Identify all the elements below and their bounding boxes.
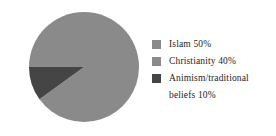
- pie-slice-group: [29, 12, 139, 122]
- legend-label-christianity: Christianity 40%: [169, 53, 276, 70]
- pie-slice: [29, 12, 139, 67]
- chart-legend: Islam 50% Christianity 40% Animism/tradi…: [151, 36, 276, 104]
- legend-swatch-animism: [152, 74, 161, 83]
- pie-chart-figure: Islam 50% Christianity 40% Animism/tradi…: [0, 0, 276, 136]
- legend-label-islam: Islam 50%: [169, 36, 276, 53]
- legend-swatch-christianity: [152, 57, 161, 66]
- legend-swatch-islam: [152, 40, 161, 49]
- legend-item-islam: Islam 50%: [151, 36, 276, 53]
- legend-item-christianity: Christianity 40%: [151, 53, 276, 70]
- legend-label-animism: Animism/traditional beliefs 10%: [169, 70, 276, 104]
- legend-item-animism: Animism/traditional beliefs 10%: [151, 70, 276, 104]
- pie-chart-plot-area: [27, 10, 141, 124]
- pie-chart-svg: [27, 10, 141, 124]
